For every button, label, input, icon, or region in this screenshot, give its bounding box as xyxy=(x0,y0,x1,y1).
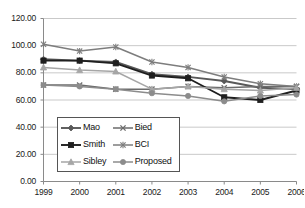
data-point-marker xyxy=(185,93,190,98)
legend-label: Proposed xyxy=(135,157,172,166)
legend-swatch-diamond-icon xyxy=(60,123,82,133)
x-tick-label: 2005 xyxy=(245,187,275,197)
data-point-marker xyxy=(113,87,118,92)
y-tick-label: 20.00 xyxy=(0,149,36,159)
chart-legend: MaoBiedSmithBCISibleyProposed xyxy=(57,117,180,172)
x-tick-label: 2003 xyxy=(173,187,203,197)
y-tick-label: 100.00 xyxy=(0,40,36,50)
line-chart: 0.0020.0040.0060.0080.00100.00120.00 199… xyxy=(0,0,304,208)
legend-swatch-x-icon xyxy=(112,123,134,133)
x-tick-label: 1999 xyxy=(29,187,59,197)
data-point-marker xyxy=(222,99,227,104)
y-tick-label: 120.00 xyxy=(0,13,36,23)
data-point-marker xyxy=(77,84,82,89)
legend-item-bci[interactable]: BCI xyxy=(112,140,177,150)
y-tick-label: 0.00 xyxy=(0,176,36,186)
data-point-marker xyxy=(120,159,125,164)
legend-item-mao[interactable]: Mao xyxy=(60,123,112,133)
data-point-marker xyxy=(149,73,154,78)
legend-item-bied[interactable]: Bied xyxy=(112,123,177,133)
data-point-marker xyxy=(294,92,299,97)
legend-swatch-circle-icon xyxy=(112,157,134,167)
y-tick-label: 60.00 xyxy=(0,95,36,105)
legend-item-smith[interactable]: Smith xyxy=(60,140,112,150)
data-point-marker xyxy=(41,82,46,87)
series-line xyxy=(44,44,297,86)
legend-label: BCI xyxy=(135,140,149,149)
legend-label: Mao xyxy=(83,123,100,132)
data-point-marker xyxy=(258,93,263,98)
legend-swatch-asterisk-icon xyxy=(112,140,134,150)
legend-swatch-square-icon xyxy=(60,140,82,150)
data-point-marker xyxy=(149,91,154,96)
data-point-marker xyxy=(41,58,46,63)
y-tick-label: 40.00 xyxy=(0,122,36,132)
y-tick-label: 80.00 xyxy=(0,67,36,77)
x-tick-label: 2001 xyxy=(101,187,131,197)
data-point-marker xyxy=(113,61,118,66)
x-tick-label: 2004 xyxy=(209,187,239,197)
x-tick-label: 2000 xyxy=(65,187,95,197)
legend-item-proposed[interactable]: Proposed xyxy=(112,157,177,167)
legend-label: Bied xyxy=(135,123,152,132)
chart-canvas xyxy=(0,0,304,208)
legend-item-sibley[interactable]: Sibley xyxy=(60,157,112,167)
data-point-marker xyxy=(185,76,190,81)
x-tick-label: 2002 xyxy=(137,187,167,197)
legend-swatch-triangle-icon xyxy=(60,157,82,167)
data-point-marker xyxy=(68,125,74,131)
x-tick-label: 2006 xyxy=(282,187,305,197)
data-point-marker xyxy=(68,142,73,147)
series-bci xyxy=(41,41,299,90)
data-point-marker xyxy=(77,58,82,63)
legend-label: Sibley xyxy=(83,157,106,166)
legend-label: Smith xyxy=(83,140,105,149)
